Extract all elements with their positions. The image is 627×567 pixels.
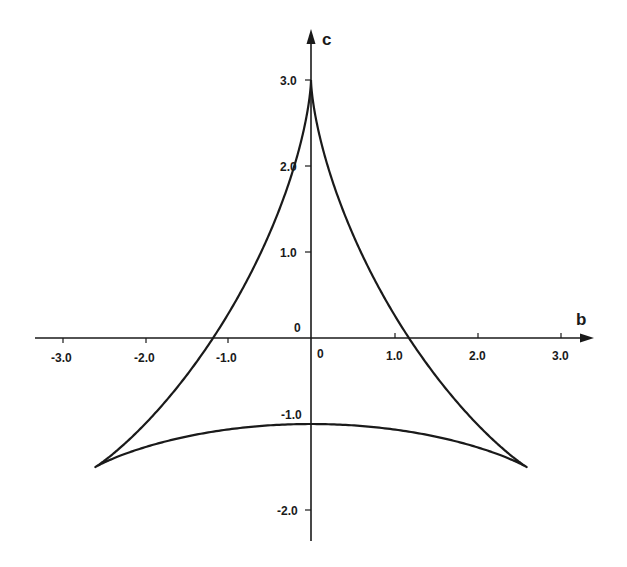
x-tick-label: 3.0 xyxy=(552,349,569,363)
deltoid-chart: b c 0 0 -3.0 -2.0 -1.0 1.0 2.0 3.0 3.0 2… xyxy=(0,0,627,567)
y-axis-label: c xyxy=(322,30,331,49)
origin-label-y: 0 xyxy=(294,321,301,335)
x-tick-label: -3.0 xyxy=(51,351,72,365)
y-tick-labels: 3.0 2.0 1.0 -1.0 -2.0 xyxy=(277,74,302,518)
y-tick-label: -2.0 xyxy=(277,504,298,518)
x-axis-label: b xyxy=(576,310,586,329)
y-ticks xyxy=(305,80,311,510)
x-tick-label: -1.0 xyxy=(216,351,237,365)
x-axis-arrow-icon xyxy=(580,334,594,343)
x-tick-labels: -3.0 -2.0 -1.0 1.0 2.0 3.0 xyxy=(51,349,569,365)
x-tick-label: 1.0 xyxy=(386,349,403,363)
y-tick-label: -1.0 xyxy=(281,408,302,422)
x-tick-label: 2.0 xyxy=(469,349,486,363)
origin-label-x: 0 xyxy=(317,347,324,361)
y-tick-label: 3.0 xyxy=(280,74,297,88)
y-tick-label: 1.0 xyxy=(280,246,297,260)
y-axis-arrow-icon xyxy=(307,29,316,44)
x-tick-label: -2.0 xyxy=(134,351,155,365)
